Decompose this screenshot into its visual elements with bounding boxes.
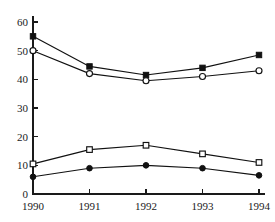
y-tick-label: 10: [17, 159, 29, 171]
y-tick-label: 40: [17, 73, 29, 85]
x-tick-label: 1991: [79, 200, 101, 212]
y-axis-tick-labels: 0102030405060: [17, 16, 29, 200]
data-point-open-square: [256, 160, 262, 166]
line-chart: 0102030405060 19901991199219931994: [0, 0, 275, 222]
y-tick-label: 60: [17, 16, 29, 28]
data-point-filled-circle: [87, 165, 93, 171]
data-point-open-circle: [30, 48, 36, 54]
x-tick-label: 1994: [248, 200, 271, 212]
data-point-open-circle: [87, 71, 93, 77]
axes: [33, 16, 265, 194]
data-point-filled-square: [143, 72, 148, 77]
data-point-open-square: [30, 161, 36, 167]
series-lines: [33, 36, 259, 176]
x-axis-tick-labels: 19901991199219931994: [22, 200, 271, 212]
data-point-filled-circle: [200, 165, 206, 171]
data-point-filled-circle: [30, 174, 36, 180]
x-tick-label: 1992: [135, 200, 157, 212]
x-tick-label: 1993: [192, 200, 215, 212]
data-point-filled-square: [87, 64, 92, 69]
data-point-open-circle: [256, 68, 262, 74]
series-line-series-filled-square: [33, 36, 259, 75]
y-tick-label: 50: [17, 45, 29, 57]
axis-spines: [33, 16, 265, 194]
y-tick-label: 0: [23, 188, 29, 200]
y-tick-label: 20: [17, 131, 29, 143]
y-tick-label: 30: [17, 102, 29, 114]
data-point-open-square: [143, 142, 149, 148]
data-point-filled-circle: [256, 173, 262, 179]
data-point-open-circle: [200, 73, 206, 79]
x-tick-label: 1990: [22, 200, 45, 212]
plot-area: 0102030405060 19901991199219931994: [0, 0, 275, 222]
data-point-filled-circle: [143, 163, 149, 169]
data-point-open-circle: [143, 78, 149, 84]
data-point-filled-square: [200, 65, 205, 70]
data-point-filled-square: [256, 52, 261, 57]
data-point-open-square: [87, 147, 93, 153]
data-point-filled-square: [30, 34, 35, 39]
data-point-open-square: [200, 151, 206, 157]
